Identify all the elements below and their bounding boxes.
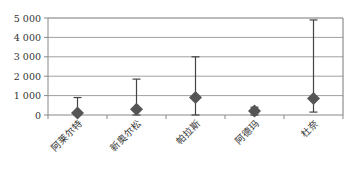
diamond-marker (71, 107, 84, 120)
y-tick-label: 4 000 (14, 32, 41, 43)
y-tick-label: 2 000 (14, 71, 41, 82)
x-axis: 阿莱尔特新奥尔松帕拉斯阿德玛杜奈 (48, 115, 343, 154)
diamond-marker (189, 91, 202, 104)
x-tick-label: 阿莱尔特 (49, 118, 85, 154)
range-chart: 01 0002 0003 0004 0005 000 阿莱尔特新奥尔松帕拉斯阿德… (0, 0, 357, 171)
diamond-marker (307, 92, 320, 105)
diamond-marker (130, 103, 143, 116)
y-tick-label: 5 000 (14, 13, 41, 24)
y-tick-label: 1 000 (14, 90, 41, 101)
y-tick-label: 3 000 (14, 51, 41, 62)
y-tick-label: 0 (35, 110, 41, 121)
x-tick-label: 杜奈 (299, 118, 321, 140)
y-axis: 01 0002 0003 0004 0005 000 (14, 13, 48, 121)
diamond-marker (248, 105, 261, 118)
x-tick-label: 阿德玛 (233, 118, 262, 147)
x-tick-label: 帕拉斯 (174, 118, 203, 147)
x-tick-label: 新奥尔松 (108, 118, 144, 154)
data-points (71, 20, 320, 120)
